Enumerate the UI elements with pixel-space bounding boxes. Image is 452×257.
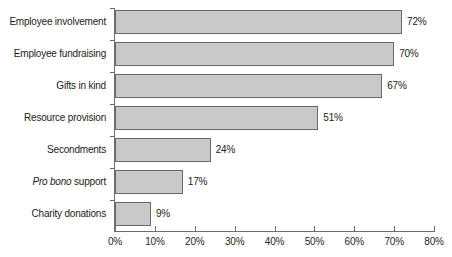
value-axis-tick-label: 50% bbox=[305, 236, 324, 247]
value-axis-tick-label: 80% bbox=[424, 236, 443, 247]
bar-value-employee-involvement: 72% bbox=[407, 16, 426, 27]
category-axis-tick bbox=[110, 72, 115, 73]
value-axis-tick bbox=[314, 226, 315, 232]
category-axis-tick bbox=[110, 168, 115, 169]
bar-value-pro-bono-support: 17% bbox=[188, 176, 207, 187]
value-axis-tick bbox=[434, 226, 435, 232]
bar-charity-donations bbox=[115, 202, 151, 226]
bar-chart: Employee involvement Employee fundraisin… bbox=[0, 0, 452, 257]
bar-pro-bono-support bbox=[115, 170, 183, 194]
category-label-charity-donations: Charity donations bbox=[32, 208, 106, 219]
value-axis-tick bbox=[155, 226, 156, 232]
category-label-resource-provision: Resource provision bbox=[24, 112, 106, 123]
bar-value-employee-fundraising: 70% bbox=[399, 48, 418, 59]
category-axis-tick bbox=[110, 200, 115, 201]
bar-value-secondments: 24% bbox=[216, 144, 235, 155]
category-label-employee-involvement: Employee involvement bbox=[9, 16, 106, 27]
value-axis-tick-label: 40% bbox=[265, 236, 284, 247]
bar-employee-involvement bbox=[115, 10, 402, 34]
value-axis-tick bbox=[235, 226, 236, 232]
value-axis-tick bbox=[275, 226, 276, 232]
category-label-employee-fundraising: Employee fundraising bbox=[14, 48, 106, 59]
category-label-pro-bono-support: Pro bono support bbox=[32, 176, 106, 187]
value-axis-tick bbox=[115, 226, 116, 232]
bar-resource-provision bbox=[115, 106, 318, 130]
category-label-italic-part: Pro bono bbox=[32, 176, 71, 187]
bar-secondments bbox=[115, 138, 211, 162]
bar-value-charity-donations: 9% bbox=[156, 208, 170, 219]
value-axis-tick bbox=[394, 226, 395, 232]
bar-employee-fundraising bbox=[115, 42, 394, 66]
bar-gifts-in-kind bbox=[115, 74, 382, 98]
category-axis-tick bbox=[110, 104, 115, 105]
category-label-secondments: Secondments bbox=[47, 144, 106, 155]
value-axis-tick-label: 70% bbox=[384, 236, 403, 247]
category-axis-tick bbox=[110, 40, 115, 41]
value-axis-tick-label: 10% bbox=[145, 236, 164, 247]
category-axis-tick bbox=[110, 136, 115, 137]
category-label-gifts-in-kind: Gifts in kind bbox=[56, 80, 106, 91]
value-axis-tick-label: 0% bbox=[108, 236, 122, 247]
bar-value-gifts-in-kind: 67% bbox=[387, 80, 406, 91]
value-axis-tick bbox=[195, 226, 196, 232]
category-axis-tick bbox=[110, 8, 115, 9]
value-axis-tick-label: 60% bbox=[345, 236, 364, 247]
value-axis-tick-label: 20% bbox=[185, 236, 204, 247]
category-label-regular-part: support bbox=[71, 176, 106, 187]
bar-value-resource-provision: 51% bbox=[323, 112, 342, 123]
value-axis-tick-label: 30% bbox=[225, 236, 244, 247]
value-axis-tick bbox=[354, 226, 355, 232]
